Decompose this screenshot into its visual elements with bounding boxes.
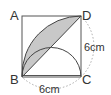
vertex-label-c: C — [82, 73, 91, 86]
dimension-label-right: 6cm — [84, 42, 105, 53]
vertex-label-a: A — [10, 9, 19, 22]
dimension-label-bottom: 6cm — [39, 84, 60, 95]
vertex-label-b: B — [10, 73, 19, 86]
vertex-label-d: D — [82, 9, 91, 22]
